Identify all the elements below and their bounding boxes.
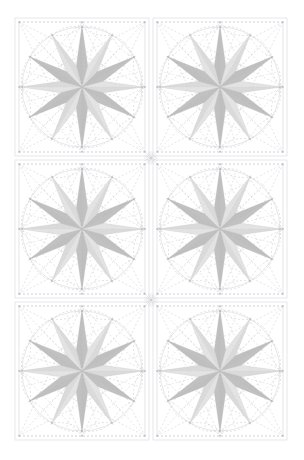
pattern-sheet: Twelve-Point Star Rosette Tiling xyxy=(0,0,304,460)
pattern-canvas: Twelve-Point Star Rosette Tiling xyxy=(0,0,304,460)
tile-junction-starburst xyxy=(144,293,158,307)
tile-junction-starburst xyxy=(144,151,158,165)
